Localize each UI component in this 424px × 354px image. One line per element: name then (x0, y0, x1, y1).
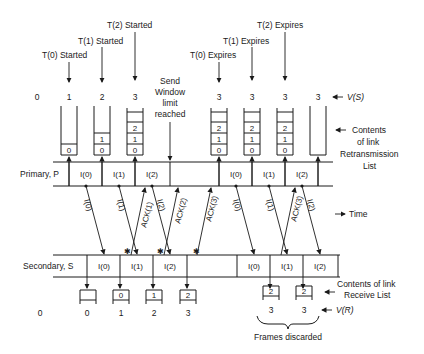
svg-text:0: 0 (250, 146, 255, 155)
svg-text:1: 1 (283, 135, 288, 144)
svg-text:3: 3 (186, 308, 191, 318)
svg-text:I(2): I(2) (146, 170, 158, 179)
svg-text:I(0): I(0) (80, 170, 92, 179)
svg-text:Contents of link: Contents of link (337, 279, 396, 289)
frames-discarded: Frames discarded (254, 316, 322, 342)
svg-text:Window: Window (155, 87, 186, 97)
svg-text:2: 2 (133, 124, 138, 133)
retx-stack-2: 0 1 (94, 106, 110, 155)
hdlc-timing-diagram: T(0) Started T(1) Started T(2) Started T… (0, 0, 424, 354)
svg-text:I(1): I(1) (131, 262, 143, 271)
svg-text:2: 2 (250, 124, 255, 133)
svg-text:2: 2 (217, 124, 222, 133)
vs-row: 0 1 2 3 3 3 3 3 V(S) (35, 92, 365, 102)
retransmission-stacks: 0 0 1 0 1 2 0 1 (61, 106, 326, 186)
t2-expires-label: T(2) Expires (257, 20, 303, 30)
vr-label: V(R) (336, 305, 354, 315)
svg-text:0: 0 (100, 146, 105, 155)
svg-text:3: 3 (316, 92, 321, 102)
svg-text:I(2): I(2) (305, 198, 317, 212)
svg-text:I(2): I(2) (155, 198, 167, 212)
svg-text:I(1): I(1) (281, 262, 293, 271)
svg-text:I(2): I(2) (164, 262, 176, 271)
retx-stack-3: 0 1 2 (127, 108, 143, 155)
t2-started-label: T(2) Started (107, 20, 153, 30)
svg-text:0: 0 (38, 308, 43, 318)
vs-label: V(S) (347, 92, 364, 102)
svg-text:0: 0 (133, 146, 138, 155)
svg-text:Retransmission: Retransmission (340, 149, 399, 159)
t0-started-label: T(0) Started (42, 50, 88, 60)
svg-text:3: 3 (217, 92, 222, 102)
svg-text:ACK(3): ACK(3) (289, 195, 305, 223)
svg-text:3: 3 (302, 305, 307, 315)
time-axis-label: Time (335, 209, 368, 219)
retx-stack-6: 0 1 2 (277, 108, 293, 155)
svg-text:I(2): I(2) (314, 262, 326, 271)
svg-text:1: 1 (133, 135, 138, 144)
svg-text:0: 0 (283, 146, 288, 155)
svg-text:limit: limit (162, 98, 178, 108)
retx-stack-4: 0 1 2 (211, 108, 227, 155)
svg-text:Receive List: Receive List (344, 290, 391, 300)
receive-list: 0 1 2 2 2 Contents of link Receive List (80, 277, 396, 304)
t0-expires-label: T(0) Expires (190, 50, 236, 60)
svg-text:Time: Time (349, 209, 368, 219)
retransmission-list-label: Contents of link Retransmission List (336, 125, 399, 171)
iframe-arrows: I(0) I(1) I(2) I(0) I(1) I(2) (82, 184, 320, 254)
svg-text:I(0): I(0) (248, 262, 260, 271)
svg-text:2: 2 (283, 124, 288, 133)
svg-text:✱: ✱ (157, 247, 164, 256)
svg-text:I(1): I(1) (264, 198, 276, 212)
svg-text:✱: ✱ (124, 247, 131, 256)
svg-text:Contents: Contents (352, 125, 386, 135)
svg-text:Frames discarded: Frames discarded (254, 332, 322, 342)
retx-stack-7-empty (310, 106, 326, 155)
svg-text:2: 2 (302, 287, 307, 296)
svg-text:3: 3 (133, 92, 138, 102)
svg-text:✱: ✱ (193, 247, 200, 256)
svg-text:0: 0 (217, 146, 222, 155)
svg-text:I(0): I(0) (230, 170, 242, 179)
svg-text:2: 2 (100, 92, 105, 102)
svg-text:2: 2 (186, 291, 191, 300)
svg-text:reached: reached (155, 109, 186, 119)
svg-text:0: 0 (67, 146, 72, 155)
secondary-label: Secondary, S (23, 261, 74, 271)
retx-stack-1: 0 (61, 106, 77, 155)
svg-text:1: 1 (100, 135, 105, 144)
svg-text:I(1): I(1) (113, 170, 125, 179)
svg-text:of link: of link (357, 137, 380, 147)
svg-text:1: 1 (119, 308, 124, 318)
svg-text:I(0): I(0) (98, 262, 110, 271)
svg-text:I(1): I(1) (263, 170, 275, 179)
svg-text:1: 1 (217, 135, 222, 144)
svg-text:3: 3 (250, 92, 255, 102)
svg-text:0: 0 (119, 291, 124, 300)
svg-text:1: 1 (250, 135, 255, 144)
svg-text:0: 0 (85, 308, 90, 318)
vr-row: 0 0 1 2 3 3 3 V(R) (38, 305, 354, 318)
retx-stack-5: 0 1 2 (244, 108, 260, 155)
primary-band: Primary, P I(0) I(1) I(2) I(0) I(1) I(2) (20, 162, 333, 186)
timer-expires-labels: T(0) Expires T(1) Expires T(2) Expires (190, 20, 303, 60)
t1-expires-label: T(1) Expires (223, 36, 269, 46)
svg-text:1: 1 (152, 291, 157, 300)
send-window-note: Send Window limit reached (155, 76, 186, 160)
svg-text:Send: Send (160, 76, 180, 86)
svg-text:3: 3 (269, 305, 274, 315)
svg-text:I(0): I(0) (231, 198, 243, 212)
primary-label: Primary, P (20, 169, 59, 179)
svg-text:ACK(3): ACK(3) (204, 195, 220, 223)
svg-text:1: 1 (67, 92, 72, 102)
svg-text:I(2): I(2) (296, 170, 308, 179)
svg-text:2: 2 (269, 287, 274, 296)
svg-text:2: 2 (152, 308, 157, 318)
svg-text:3: 3 (283, 92, 288, 102)
t1-started-label: T(1) Started (78, 36, 124, 46)
ack-arrows: ✱ ✱ ✱ ACK(1) ACK(2) ACK(3) ACK(3) (124, 188, 305, 256)
svg-text:0: 0 (35, 92, 40, 102)
secondary-band: Secondary, S I(0) I(1) I(2) I(0) I(1) I(… (23, 255, 340, 277)
svg-text:List: List (363, 161, 377, 171)
timer-started-labels: T(0) Started T(1) Started T(2) Started (42, 20, 153, 60)
